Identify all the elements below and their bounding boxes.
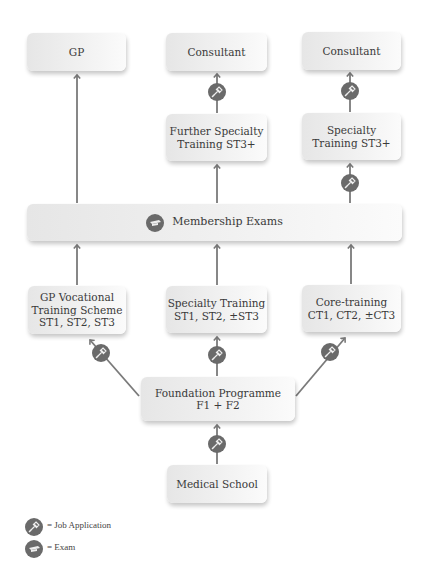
legend-label: = Job Application [47,520,111,530]
node-core-training: Core-training CT1, CT2, ±CT3 [302,285,401,332]
node-label: Foundation Programme [155,387,281,400]
node-label: Specialty [327,124,376,137]
job-application-icon [92,344,110,362]
node-consultant-mid: Consultant [166,33,267,71]
node-label: Medical School [176,478,258,491]
node-label: GP [69,46,84,59]
job-application-icon [208,435,226,453]
node-label: Core-training [316,296,388,309]
node-gp: GP [27,33,126,71]
job-application-icon [321,343,339,361]
node-label: ST1, ST2, ST3 [39,316,115,329]
job-application-icon [208,346,226,364]
node-label: Training ST3+ [312,137,390,150]
node-specialty-st3: Specialty Training ST3+ [302,113,401,160]
node-further-specialty: Further Specialty Training ST3+ [166,114,267,161]
node-label: GP Vocational [40,291,114,304]
legend-job-application-icon [25,518,43,536]
job-application-icon [341,82,359,100]
legend-label: = Exam [47,542,75,552]
node-gp-vts: GP Vocational Training Scheme ST1, ST2, … [28,286,126,334]
job-application-icon [208,83,226,101]
node-label: ST1, ST2, ±ST3 [174,310,259,323]
node-label: F1 + F2 [196,399,239,412]
node-label: Training ST3+ [177,138,255,151]
node-label: Consultant [322,45,380,58]
node-label: Consultant [187,46,245,59]
node-label: CT1, CT2, ±CT3 [308,309,395,322]
legend-job-application: = Job Application [47,520,111,530]
node-label: Specialty Training [168,297,266,310]
node-label: Training Scheme [32,304,123,317]
node-membership-exams: Membership Exams [27,204,402,241]
node-consultant-right: Consultant [302,32,401,70]
legend-exam-icon [25,540,43,558]
exam-icon [146,214,164,232]
node-medical-school: Medical School [167,465,267,503]
edge-foundation-core [296,338,345,396]
node-foundation-programme: Foundation Programme F1 + F2 [141,377,295,421]
node-label: Membership Exams [172,216,283,229]
job-application-icon [341,174,359,192]
node-label: Further Specialty [170,125,264,138]
legend-exam: = Exam [47,542,75,552]
node-specialty-training: Specialty Training ST1, ST2, ±ST3 [166,286,267,333]
